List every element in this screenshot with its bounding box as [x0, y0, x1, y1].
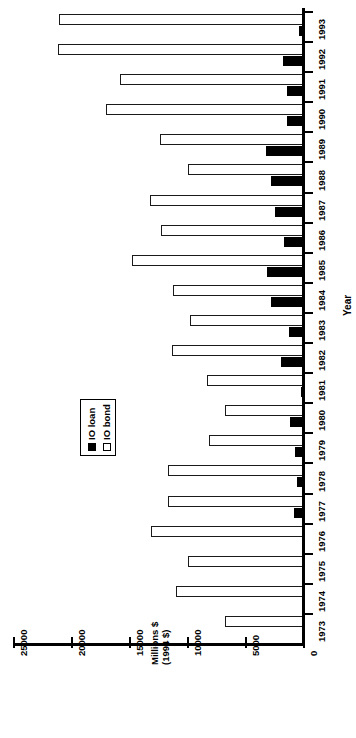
bar-loan-1990	[287, 116, 303, 126]
legend-label: IO loan	[85, 408, 99, 440]
year-tick-label-1985: 1985	[316, 260, 327, 281]
bar-bond-1989	[160, 134, 303, 145]
bar-loan-1988	[271, 176, 303, 186]
legend-entry-io-bond: IO bond	[100, 396, 116, 451]
year-tick-1975	[303, 553, 313, 555]
value-axis-title-line-1: Millions $	[149, 622, 160, 665]
year-tick-label-1981: 1981	[316, 380, 327, 401]
year-tick-1974	[303, 583, 313, 585]
year-tick-1981	[303, 372, 313, 374]
year-tick-1987	[303, 192, 313, 194]
value-axis-title-line-2: (1994 $)	[160, 622, 171, 665]
bar-bond-1980	[225, 405, 303, 416]
bar-bond-1973	[225, 616, 303, 627]
year-tick-1976	[303, 523, 313, 525]
value-tick-label-5000: 5000	[250, 635, 261, 656]
bar-bond-1988	[188, 164, 303, 175]
value-tick-25000	[13, 637, 15, 648]
year-tick-label-1979: 1979	[316, 440, 327, 461]
bar-bond-1987	[150, 195, 303, 206]
bar-bond-1977	[168, 496, 303, 507]
bar-bond-1979	[209, 435, 303, 446]
bar-loan-1984	[271, 297, 303, 307]
year-tick-label-1987: 1987	[316, 200, 327, 221]
year-tick-1990	[303, 101, 313, 103]
bar-bond-1985	[132, 255, 303, 266]
bar-bond-1974	[176, 586, 303, 597]
year-tick-1978	[303, 462, 313, 464]
year-tick-label-1977: 1977	[316, 500, 327, 521]
legend-label: IO bond	[100, 404, 114, 440]
value-tick-label-25000: 25000	[18, 630, 29, 656]
bar-bond-1983	[190, 315, 303, 326]
year-tick-label-1976: 1976	[316, 531, 327, 552]
year-tick-label-1990: 1990	[316, 109, 327, 130]
year-axis-title: Year	[342, 295, 353, 316]
plot-area: 1973197419751976197719781979198019811982…	[0, 0, 356, 738]
bar-bond-1981	[207, 375, 303, 386]
value-axis-title: Millions $ (1994 $)	[149, 622, 171, 665]
year-tick-label-1992: 1992	[316, 49, 327, 70]
year-tick-1993	[303, 11, 313, 13]
year-tick-1977	[303, 493, 313, 495]
legend-entry-io-loan: IO loan	[85, 396, 101, 451]
bar-bond-1976	[151, 526, 303, 537]
value-tick-15000	[129, 637, 131, 648]
bar-bond-1978	[168, 465, 303, 476]
bar-bond-1986	[161, 225, 303, 236]
year-tick-1979	[303, 432, 313, 434]
bar-loan-1982	[281, 357, 303, 367]
year-tick-label-1993: 1993	[316, 19, 327, 40]
bar-loan-1985	[267, 267, 303, 277]
value-tick-label-15000: 15000	[134, 630, 145, 656]
bar-bond-1975	[188, 556, 303, 567]
value-tick-0	[303, 637, 305, 648]
year-tick-label-1984: 1984	[316, 290, 327, 311]
year-axis-line	[302, 8, 305, 646]
value-tick-label-10000: 10000	[192, 630, 203, 656]
year-tick-label-1974: 1974	[316, 591, 327, 612]
value-tick-10000	[187, 637, 189, 648]
year-tick-label-1986: 1986	[316, 230, 327, 251]
year-tick-1980	[303, 402, 313, 404]
year-tick-label-1975: 1975	[316, 561, 327, 582]
legend-swatch-loan-icon	[88, 443, 96, 451]
chart-legend: IO loanIO bond	[80, 399, 116, 456]
year-tick-1989	[303, 131, 313, 133]
year-tick-1983	[303, 312, 313, 314]
year-tick-1985	[303, 252, 313, 254]
bar-loan-1989	[266, 146, 303, 156]
year-tick-1991	[303, 71, 313, 73]
value-tick-20000	[71, 637, 73, 648]
year-tick-label-1991: 1991	[316, 79, 327, 100]
year-tick-label-1989: 1989	[316, 139, 327, 160]
bar-loan-1991	[287, 86, 303, 96]
bar-bond-1982	[172, 345, 303, 356]
bar-bond-1991	[120, 74, 303, 85]
year-tick-1984	[303, 282, 313, 284]
year-tick-1973	[303, 613, 313, 615]
bar-bond-1990	[106, 104, 303, 115]
legend-swatch-bond-icon	[103, 443, 111, 451]
year-tick-label-1988: 1988	[316, 169, 327, 190]
value-tick-label-20000: 20000	[76, 630, 87, 656]
bar-loan-1992	[283, 56, 303, 66]
year-tick-1982	[303, 342, 313, 344]
value-tick-5000	[245, 637, 247, 648]
year-tick-label-1980: 1980	[316, 410, 327, 431]
year-tick-label-1982: 1982	[316, 350, 327, 371]
bar-loan-1987	[275, 207, 303, 217]
year-tick-1992	[303, 41, 313, 43]
bar-bond-1984	[173, 285, 303, 296]
year-tick-1986	[303, 222, 313, 224]
bar-loan-1983	[289, 327, 303, 337]
year-tick-1988	[303, 161, 313, 163]
bar-bond-1993	[59, 14, 303, 25]
bar-bond-1992	[58, 44, 303, 55]
year-tick-label-1978: 1978	[316, 470, 327, 491]
chart-figure: 1973197419751976197719781979198019811982…	[0, 0, 356, 738]
year-tick-label-1983: 1983	[316, 320, 327, 341]
year-tick-label-1973: 1973	[316, 621, 327, 642]
bar-loan-1986	[284, 237, 303, 247]
value-tick-label-0: 0	[308, 651, 319, 656]
